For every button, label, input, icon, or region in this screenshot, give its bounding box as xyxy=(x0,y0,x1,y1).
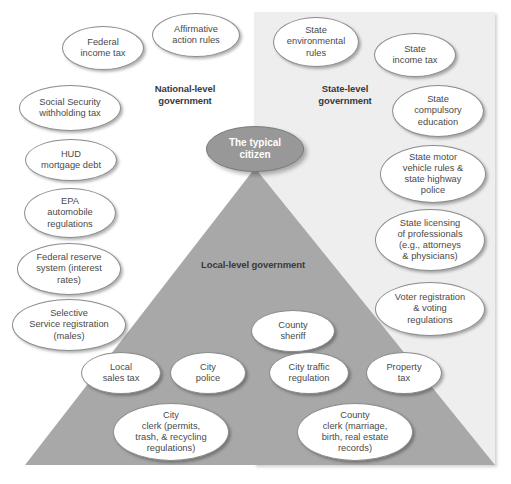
node-county-clerk[interactable]: County clerk (marriage, birth, real esta… xyxy=(297,403,413,461)
node-hud-mortgage-debt[interactable]: HUD mortgage debt xyxy=(25,139,117,181)
node-social-security-withholding-tax[interactable]: Social Security withholding tax xyxy=(19,85,121,131)
node-city-traffic-regulation[interactable]: City traffic regulation xyxy=(269,352,349,394)
node-federal-income-tax[interactable]: Federal income tax xyxy=(62,26,144,70)
label-local-level-government: Local-level government xyxy=(183,259,323,271)
node-epa-automobile-regulations[interactable]: EPA automobile regulations xyxy=(24,188,116,238)
label-state-level-government: State-level government xyxy=(285,83,405,107)
node-typical-citizen[interactable]: The typical citizen xyxy=(206,126,304,172)
node-voter-registration-and-voting-regulations[interactable]: Voter registration & voting regulations xyxy=(375,282,485,336)
node-state-income-tax[interactable]: State income tax xyxy=(374,33,456,77)
label-national-level-government: National-level government xyxy=(125,83,245,107)
node-city-police[interactable]: City police xyxy=(170,352,246,394)
node-state-motor-vehicle-rules[interactable]: State motor vehicle rules & state highwa… xyxy=(380,145,486,203)
node-federal-reserve-system[interactable]: Federal reserve system (interest rates) xyxy=(17,243,121,295)
node-state-environmental-rules[interactable]: State environmental rules xyxy=(273,17,359,67)
node-local-sales-tax[interactable]: Local sales tax xyxy=(81,352,161,394)
node-property-tax[interactable]: Property tax xyxy=(366,352,442,394)
node-selective-service-registration[interactable]: Selective Service registration (males) xyxy=(12,299,126,351)
node-state-compulsory-education[interactable]: State compulsory education xyxy=(392,85,484,137)
diagram-canvas: National-level government State-level go… xyxy=(0,0,511,484)
node-state-licensing-of-professionals[interactable]: State licensing of professionals (e.g., … xyxy=(375,209,485,271)
node-affirmative-action-rules[interactable]: Affirmative action rules xyxy=(152,13,240,57)
node-city-clerk[interactable]: City clerk (permits, trash, & recycling … xyxy=(113,403,229,461)
node-county-sheriff[interactable]: County sheriff xyxy=(251,310,335,352)
